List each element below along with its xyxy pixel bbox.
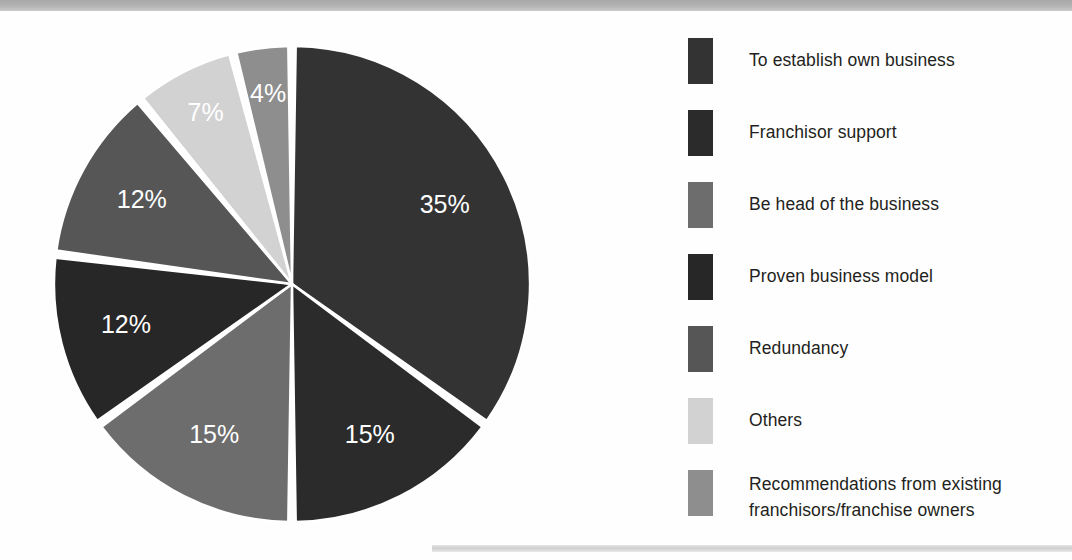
legend-item[interactable]: Others bbox=[688, 398, 802, 444]
legend-item-label: Proven business model bbox=[749, 254, 933, 289]
chart-legend: To establish own businessFranchisor supp… bbox=[688, 30, 1060, 550]
legend-item-label: To establish own business bbox=[749, 38, 955, 73]
legend-color-swatch bbox=[688, 398, 713, 444]
scan-artifact-top-bar bbox=[0, 0, 1072, 11]
legend-item[interactable]: Franchisor support bbox=[688, 110, 897, 156]
legend-color-swatch bbox=[688, 326, 713, 372]
legend-item[interactable]: Recommendations from existing franchisor… bbox=[688, 470, 1002, 523]
legend-item-label: Recommendations from existing franchisor… bbox=[749, 470, 1002, 523]
scan-artifact-bottom-bar bbox=[432, 545, 1072, 552]
legend-item[interactable]: Proven business model bbox=[688, 254, 933, 300]
legend-item-label: Redundancy bbox=[749, 326, 848, 361]
legend-item-label: Others bbox=[749, 398, 802, 433]
legend-item[interactable]: To establish own business bbox=[688, 38, 955, 84]
pie-slice-data-label: 15% bbox=[189, 420, 239, 448]
legend-color-swatch bbox=[688, 38, 713, 84]
legend-item[interactable]: Redundancy bbox=[688, 326, 848, 372]
pie-chart: 35%15%15%12%12%7%4% bbox=[42, 27, 542, 527]
legend-color-swatch bbox=[688, 470, 713, 516]
pie-chart-svg[interactable]: 35%15%15%12%12%7%4% bbox=[42, 27, 542, 527]
pie-chart-area: 35%15%15%12%12%7%4% bbox=[0, 12, 660, 542]
pie-slice-data-label: 4% bbox=[250, 79, 286, 107]
pie-slice-data-label: 12% bbox=[101, 310, 151, 338]
pie-slice-data-label: 7% bbox=[188, 98, 224, 126]
legend-item-label: Be head of the business bbox=[749, 182, 939, 217]
pie-slice-data-label: 12% bbox=[117, 185, 167, 213]
legend-color-swatch bbox=[688, 254, 713, 300]
pie-slice-data-label: 35% bbox=[420, 190, 470, 218]
legend-color-swatch bbox=[688, 110, 713, 156]
pie-slice-data-label: 15% bbox=[345, 420, 395, 448]
pie-slices-group bbox=[54, 46, 530, 522]
page-root: 35%15%15%12%12%7%4% To establish own bus… bbox=[0, 0, 1072, 560]
legend-item-label: Franchisor support bbox=[749, 110, 897, 145]
legend-item[interactable]: Be head of the business bbox=[688, 182, 939, 228]
legend-color-swatch bbox=[688, 182, 713, 228]
